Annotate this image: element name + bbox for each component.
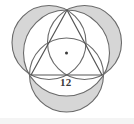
bottom-edge-band bbox=[0, 118, 134, 124]
geometry-figure: 12 bbox=[0, 0, 134, 124]
side-length-label: 12 bbox=[60, 77, 71, 88]
circumcenter-dot bbox=[65, 52, 68, 55]
geometry-diagram-svg bbox=[0, 0, 134, 124]
